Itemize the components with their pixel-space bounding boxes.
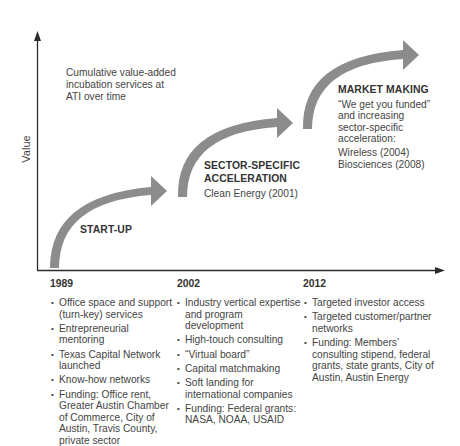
list-item: Targeted customer/partner networks: [304, 311, 440, 334]
list-item: Funding: Office rent, Greater Austin Cha…: [51, 389, 173, 446]
list-item: Capital matchmaking: [177, 363, 303, 375]
list-item: Industry vertical expertise and program …: [177, 297, 303, 332]
subtitle-line: acceleration:: [338, 133, 456, 145]
sector-item: Biosciences (2008): [338, 159, 456, 171]
services-list-2012: Targeted investor access Targeted custom…: [304, 297, 440, 386]
cumulative-value-note: Cumulative value-added incubation servic…: [66, 67, 196, 104]
list-item: Soft landing for international companies: [177, 377, 303, 400]
list-item: Targeted investor access: [304, 297, 440, 309]
list-item: Entrepreneurial mentoring: [51, 323, 173, 346]
phase-title: ACCELERATION: [204, 173, 314, 186]
phase-subtitle: “We get you funded” and increasing secto…: [338, 99, 456, 145]
list-item: “Virtual board”: [177, 349, 303, 361]
year-label-2002: 2002: [177, 278, 200, 289]
phase-title: START-UP: [80, 224, 132, 237]
x-axis-arrowhead-icon: [435, 267, 445, 274]
sector-item: Wireless (2004): [338, 147, 456, 159]
list-item: High-touch consulting: [177, 334, 303, 346]
x-axis: [37, 267, 445, 274]
y-axis: [34, 31, 41, 270]
note-line: incubation services at: [66, 79, 196, 91]
list-item: Funding: Members’ consulting stipend, fe…: [304, 337, 440, 383]
note-line: Cumulative value-added: [66, 67, 196, 79]
services-list-1989: Office space and support (turn-key) serv…: [51, 297, 173, 446]
list-item: Funding: Federal grants: NASA, NOAA, USA…: [177, 403, 303, 426]
year-label-1989: 1989: [50, 278, 73, 289]
phase-sector-acceleration: SECTOR-SPECIFIC ACCELERATION Clean Energ…: [204, 160, 314, 200]
phase-startup: START-UP: [80, 224, 132, 237]
startup-growth-arrow-icon: [50, 176, 167, 268]
phase-market-making: MARKET MAKING “We get you funded” and in…: [338, 84, 456, 170]
y-axis-label: Value: [20, 132, 32, 166]
note-line: ATI over time: [66, 91, 196, 103]
list-item: Office space and support (turn-key) serv…: [51, 297, 173, 320]
sector-list: Wireless (2004) Biosciences (2008): [338, 147, 456, 170]
phase-subtitle: Clean Energy (2001): [204, 188, 314, 200]
year-label-2012: 2012: [303, 278, 326, 289]
list-item: Know-how networks: [51, 374, 173, 386]
subtitle-line: “We get you funded”: [338, 99, 456, 111]
subtitle-line: and increasing: [338, 110, 456, 122]
y-axis-arrowhead-icon: [34, 31, 41, 41]
services-list-2002: Industry vertical expertise and program …: [177, 297, 303, 429]
phase-title: SECTOR-SPECIFIC: [204, 160, 314, 173]
list-item: Texas Capital Network launched: [51, 349, 173, 372]
phase-title: MARKET MAKING: [338, 84, 456, 97]
subtitle-line: sector-specific: [338, 122, 456, 134]
